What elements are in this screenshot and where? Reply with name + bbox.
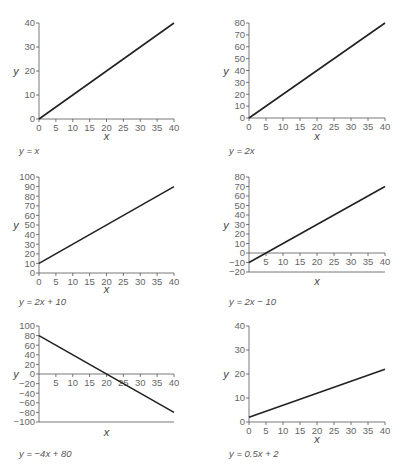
y-tick-label: 70 — [234, 181, 245, 192]
y-tick-label: 30 — [24, 239, 35, 250]
y-tick-label: 40 — [234, 209, 245, 220]
y-axis-label: y — [222, 219, 230, 231]
x-axis-label: x — [313, 275, 320, 287]
y-tick-label: 20 — [234, 228, 245, 239]
y-tick-label: 10 — [24, 89, 35, 100]
equation-caption: y = 2x − 10 — [228, 296, 277, 307]
y-tick-label: −20 — [19, 378, 35, 389]
x-tick-label: 5 — [263, 425, 268, 436]
y-tick-label: 60 — [24, 340, 35, 351]
y-tick-label: 30 — [234, 344, 245, 355]
y-tick-label: 60 — [234, 41, 245, 52]
x-tick-label: 25 — [118, 122, 129, 133]
x-tick-label: 10 — [67, 377, 78, 388]
y-tick-label: 30 — [24, 41, 35, 52]
x-tick-label: 35 — [152, 377, 163, 388]
y-tick-label: 60 — [234, 190, 245, 201]
x-tick-label: 10 — [278, 121, 289, 132]
chart-3: 01020304050607080901000510152025303540yx… — [12, 171, 179, 307]
x-tick-label: 0 — [246, 121, 251, 132]
y-tick-label: 0 — [240, 416, 245, 427]
x-tick-label: 40 — [169, 122, 180, 133]
x-tick-label: 25 — [118, 276, 129, 287]
y-tick-label: 0 — [240, 112, 245, 123]
y-tick-label: 40 — [234, 65, 245, 76]
x-tick-label: 0 — [36, 122, 41, 133]
x-axis-label: x — [103, 130, 110, 142]
x-tick-label: 30 — [135, 377, 146, 388]
x-tick-label: 35 — [152, 122, 163, 133]
x-tick-label: 40 — [169, 276, 180, 287]
x-axis-label: x — [313, 130, 320, 142]
y-tick-label: 80 — [234, 17, 245, 28]
y-tick-label: 30 — [234, 219, 245, 230]
y-tick-label: 0 — [240, 247, 245, 258]
chart-4: −20−1001020304050607080510152025303540yx… — [222, 171, 390, 307]
y-tick-label: 70 — [234, 29, 245, 40]
x-tick-label: 15 — [84, 122, 95, 133]
data-line — [39, 23, 174, 119]
x-tick-label: 5 — [53, 122, 58, 133]
y-tick-label: 50 — [234, 53, 245, 64]
x-tick-label: 35 — [152, 276, 163, 287]
equation-caption: y = −4x + 80 — [18, 448, 72, 459]
x-tick-label: 15 — [295, 256, 306, 267]
x-tick-label: 10 — [67, 122, 78, 133]
y-tick-label: 10 — [234, 100, 245, 111]
y-axis-label: y — [12, 219, 20, 231]
y-tick-label: 80 — [24, 330, 35, 341]
x-tick-label: 10 — [278, 256, 289, 267]
chart-5: −100−80−60−40−20020406080100510152025303… — [12, 320, 179, 459]
y-tick-label: 10 — [24, 258, 35, 269]
x-tick-label: 0 — [246, 425, 251, 436]
y-tick-label: 20 — [234, 89, 245, 100]
x-tick-label: 40 — [380, 256, 391, 267]
y-tick-label: 50 — [24, 219, 35, 230]
y-tick-label: 80 — [24, 191, 35, 202]
y-tick-label: 80 — [234, 171, 245, 182]
y-tick-label: 10 — [234, 238, 245, 249]
charts-canvas: 0102030400510152025303540yxy = x01020304… — [0, 0, 405, 471]
y-tick-label: 20 — [24, 65, 35, 76]
data-line — [39, 187, 174, 264]
y-tick-label: 0 — [30, 368, 35, 379]
y-tick-label: 10 — [234, 392, 245, 403]
x-tick-label: 30 — [346, 256, 357, 267]
x-axis-label: x — [103, 283, 110, 295]
y-tick-label: 40 — [24, 349, 35, 360]
y-tick-label: 30 — [234, 77, 245, 88]
y-tick-label: 70 — [24, 200, 35, 211]
x-tick-label: 40 — [169, 377, 180, 388]
y-tick-label: 20 — [24, 248, 35, 259]
x-tick-label: 20 — [101, 377, 112, 388]
x-tick-label: 10 — [278, 425, 289, 436]
x-tick-label: 40 — [380, 425, 391, 436]
y-axis-label: y — [12, 65, 20, 77]
x-tick-label: 30 — [346, 425, 357, 436]
x-tick-label: 10 — [67, 276, 78, 287]
data-line — [249, 369, 385, 417]
x-tick-label: 5 — [263, 256, 268, 267]
chart-1: 0102030400510152025303540yxy = x — [12, 17, 179, 156]
y-tick-label: −20 — [229, 266, 245, 277]
x-tick-label: 5 — [53, 276, 58, 287]
y-tick-label: 0 — [30, 113, 35, 124]
y-tick-label: −10 — [229, 257, 245, 268]
x-tick-label: 40 — [380, 121, 391, 132]
y-tick-label: 20 — [24, 359, 35, 370]
equation-caption: y = x — [18, 145, 41, 156]
y-tick-label: 40 — [234, 320, 245, 331]
x-tick-label: 15 — [295, 425, 306, 436]
x-tick-label: 35 — [363, 256, 374, 267]
y-axis-label: y — [222, 368, 230, 380]
x-tick-label: 35 — [363, 425, 374, 436]
y-tick-label: 100 — [19, 171, 35, 182]
x-axis-label: x — [313, 433, 320, 445]
x-tick-label: 30 — [135, 276, 146, 287]
y-tick-label: 40 — [24, 229, 35, 240]
data-line — [249, 187, 385, 263]
x-tick-label: 30 — [135, 122, 146, 133]
y-tick-label: 60 — [24, 210, 35, 221]
x-tick-label: 15 — [295, 121, 306, 132]
equation-caption: y = 0.5x + 2 — [228, 448, 279, 459]
